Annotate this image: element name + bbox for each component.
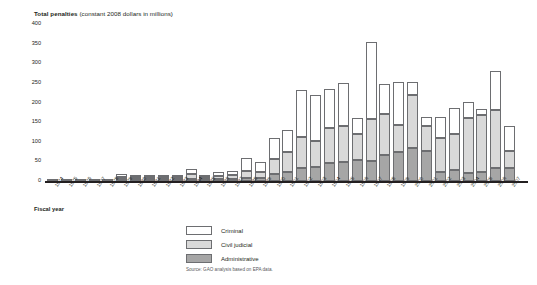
bar (393, 82, 404, 181)
bar-segment-civil (324, 128, 335, 163)
chart-title: Total penalties (constant 2008 dollars i… (34, 10, 173, 17)
source-note: Source: GAO analysis based on EPA data. (186, 267, 273, 272)
legend-label: Administrative (221, 256, 259, 262)
bar-segment-civil (435, 138, 446, 171)
x-axis-title: Fiscal year (34, 206, 64, 212)
bar (310, 95, 321, 181)
bar (449, 108, 460, 181)
bar-segment-civil (366, 119, 377, 161)
bar-segment-civil (282, 152, 293, 172)
bar-segment-civil (379, 114, 390, 156)
bar (269, 138, 280, 181)
bar-segment-civil (463, 118, 474, 173)
bar-segment-civil (449, 134, 460, 170)
bar (338, 83, 349, 182)
y-tick-label: 350 (17, 41, 41, 47)
bar (296, 90, 307, 181)
bar-segment-criminal (449, 108, 460, 134)
y-tick-label: 200 (17, 100, 41, 106)
y-tick-label: 0 (17, 178, 41, 184)
bar-segment-criminal (463, 102, 474, 118)
bar-segment-criminal (379, 84, 390, 113)
bar-segment-civil (421, 126, 432, 151)
y-tick-label: 50 (17, 159, 41, 165)
bar (352, 118, 363, 182)
bar-segment-civil (407, 95, 418, 148)
bar-segment-civil (310, 141, 321, 168)
y-tick-label: 400 (17, 21, 41, 27)
bar-segment-criminal (421, 117, 432, 126)
bar-segment-civil (393, 125, 404, 152)
legend-item: Administrative (186, 252, 386, 265)
bar-segment-criminal (393, 82, 404, 125)
bar (421, 117, 432, 181)
bar-segment-criminal (504, 126, 515, 151)
bar-segment-criminal (255, 162, 266, 173)
bar-segment-civil (490, 110, 501, 169)
bar-segment-criminal (269, 138, 280, 158)
plot-area: 050100150200250300350400 (45, 24, 528, 183)
bar-segment-criminal (366, 42, 377, 120)
legend-label: Civil judicial (221, 242, 252, 248)
bar (490, 71, 501, 181)
bar (435, 117, 446, 182)
legend: CriminalCivil judicialAdministrative (186, 224, 386, 266)
legend-swatch-criminal (186, 226, 212, 235)
x-axis-ticks: 1974197519761977197819791980198119821983… (45, 185, 528, 205)
bar (504, 126, 515, 181)
bar-segment-civil (352, 134, 363, 161)
bar-segment-admin (407, 148, 418, 181)
bar (324, 89, 335, 182)
bar-segment-criminal (407, 82, 418, 96)
bar-segment-criminal (490, 71, 501, 109)
y-tick-label: 300 (17, 60, 41, 66)
bar-segment-criminal (352, 118, 363, 134)
legend-item: Criminal (186, 224, 386, 237)
bar (366, 42, 377, 182)
bar (476, 109, 487, 182)
legend-swatch-admin (186, 254, 212, 263)
bar-segment-civil (269, 159, 280, 175)
chart-title-bold: Total penalties (34, 10, 78, 17)
bar-segment-criminal (338, 83, 349, 126)
chart-figure: Total penalties (constant 2008 dollars i… (0, 0, 537, 285)
bar-segment-criminal (435, 117, 446, 139)
bar (463, 102, 474, 181)
bar (407, 82, 418, 182)
bar-group (45, 24, 528, 181)
legend-label: Criminal (221, 228, 243, 234)
bar (379, 84, 390, 181)
legend-swatch-civil (186, 240, 212, 249)
bar-segment-civil (476, 115, 487, 172)
y-tick-label: 100 (17, 139, 41, 145)
legend-item: Civil judicial (186, 238, 386, 251)
y-tick-label: 250 (17, 80, 41, 86)
bar (282, 130, 293, 181)
chart-title-light: (constant 2008 dollars in millions) (79, 10, 173, 17)
bar-segment-criminal (324, 89, 335, 128)
bar-segment-criminal (310, 95, 321, 141)
bar-segment-criminal (241, 158, 252, 171)
bar-segment-civil (296, 137, 307, 168)
bar-segment-civil (338, 126, 349, 163)
y-tick-label: 150 (17, 119, 41, 125)
bar-segment-civil (504, 151, 515, 167)
bar-segment-criminal (282, 130, 293, 152)
bar-segment-criminal (296, 90, 307, 137)
